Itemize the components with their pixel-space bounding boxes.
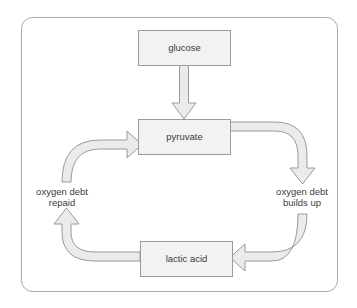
node-lactic-acid[interactable]: lactic acid: [141, 242, 233, 277]
node-glucose[interactable]: glucose: [139, 31, 231, 66]
label-oxygen-debt-builds-up: oxygen debt builds up: [276, 186, 328, 208]
label-oxygen-debt-repaid-line2: repaid: [49, 197, 75, 208]
node-pyruvate[interactable]: pyruvate: [139, 120, 231, 155]
label-oxygen-debt-builds-up-line1: oxygen debt: [276, 186, 328, 197]
node-glucose-label: glucose: [168, 42, 201, 53]
label-oxygen-debt-repaid-line1: oxygen debt: [36, 186, 88, 197]
node-pyruvate-label: pyruvate: [166, 131, 202, 142]
node-lactic-acid-label: lactic acid: [166, 253, 208, 264]
diagram-canvas: glucose pyruvate lactic acid oxygen debt…: [0, 0, 357, 308]
anaerobic-respiration-diagram: glucose pyruvate lactic acid oxygen debt…: [0, 0, 357, 308]
label-oxygen-debt-builds-up-line2: builds up: [283, 197, 321, 208]
